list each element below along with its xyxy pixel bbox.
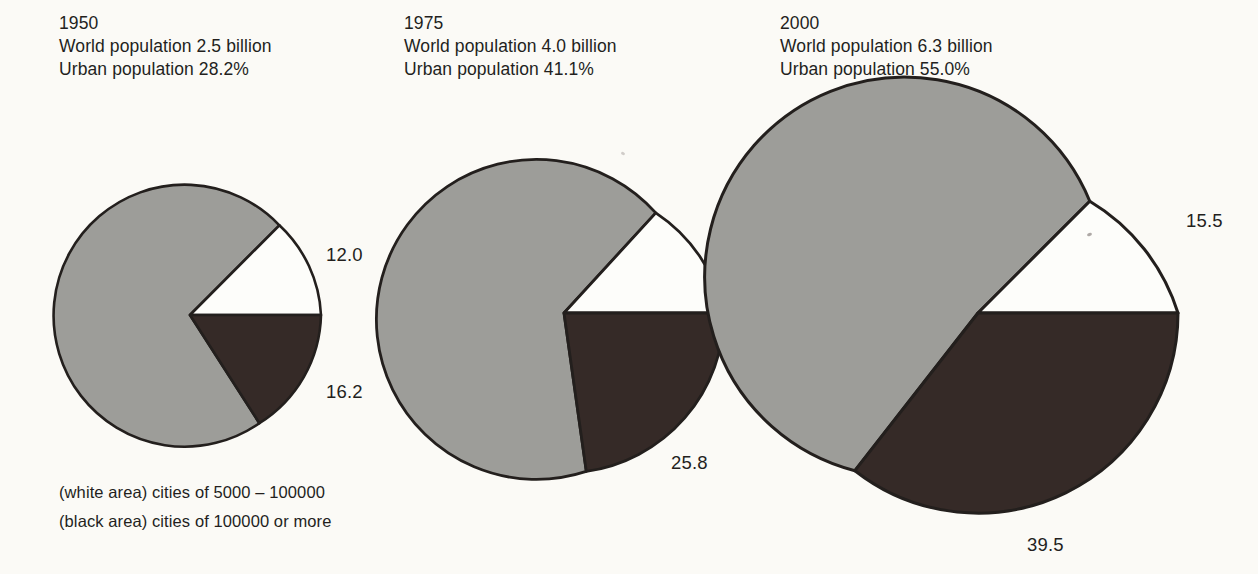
- panel-world-population: World population 2.5 billion: [59, 35, 272, 58]
- slice-large-cities-black: [564, 313, 724, 471]
- pie-2000-black-value: 39.5: [1027, 536, 1064, 555]
- pie-2000: [777, 112, 1179, 514]
- panel-year: 2000: [780, 12, 993, 35]
- panel-urban-population: Urban population 41.1%: [404, 58, 617, 81]
- panel-world-population: World population 6.3 billion: [780, 35, 993, 58]
- panel-heading: 1950 World population 2.5 billion Urban …: [59, 12, 272, 80]
- legend: (white area) cities of 5000 – 100000 (bl…: [59, 478, 331, 537]
- panel-heading: 1975 World population 4.0 billion Urban …: [404, 12, 617, 80]
- panel-year: 1975: [404, 12, 617, 35]
- panel-heading: 2000 World population 6.3 billion Urban …: [780, 12, 993, 80]
- legend-black-area: (black area) cities of 100000 or more: [59, 507, 331, 536]
- pie-1975-black-value: 25.8: [671, 454, 708, 473]
- panel-world-population: World population 4.0 billion: [404, 35, 617, 58]
- pie-1950: [58, 183, 322, 447]
- legend-white-area: (white area) cities of 5000 – 100000: [59, 478, 331, 507]
- pie-1950-white-value: 12.0: [326, 246, 363, 265]
- pie-2000-white-value: 15.5: [1186, 212, 1223, 231]
- panel-year: 1950: [59, 12, 272, 35]
- pie-1975: [403, 152, 725, 474]
- pie-2000-svg: [777, 112, 1179, 514]
- pie-1975-svg: [403, 152, 725, 474]
- panel-urban-population: Urban population 28.2%: [59, 58, 272, 81]
- pie-chart-figure: 1950 World population 2.5 billion Urban …: [0, 0, 1258, 574]
- pie-1950-svg: [58, 183, 322, 447]
- pie-1950-black-value: 16.2: [326, 383, 363, 402]
